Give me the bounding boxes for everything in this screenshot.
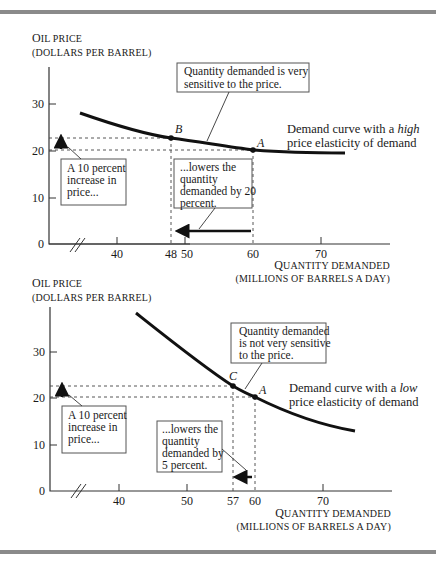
top-callout-qty-line4: percent. <box>180 197 217 210</box>
top-axes <box>49 67 190 244</box>
top-curve-label-line2: price elasticity of demand <box>287 136 417 150</box>
top-ytick-0: 0 <box>38 237 44 251</box>
top-curve-label-line1: Demand curve with a high <box>287 122 420 136</box>
bottom-xtick-60: 60 <box>249 494 261 508</box>
top-y-axis-subtitle: (DOLLARS PER BARREL) <box>32 47 152 59</box>
bottom-point-c-label: C <box>229 369 238 383</box>
bottom-callout-price-line2: increase in <box>68 421 118 433</box>
top-chart: OIL PRICE (DOLLARS PER BARREL) 30 20 10 … <box>32 31 420 285</box>
top-x-axis-title: QUANTITY DEMANDED <box>274 258 390 272</box>
bottom-callout-price-line3: price... <box>68 433 100 446</box>
bottom-xtick-57: 57 <box>227 494 239 508</box>
top-point-b-label: B <box>175 122 183 136</box>
bottom-ytick-0: 0 <box>39 484 45 498</box>
top-xtick-60: 60 <box>247 247 259 261</box>
bottom-y-axis-subtitle: (DOLLARS PER BARREL) <box>32 292 152 304</box>
top-point-a-label: A <box>256 136 265 150</box>
top-ytick-10: 10 <box>32 191 44 205</box>
top-callout-price-line2: increase in <box>67 174 117 186</box>
bottom-point-a <box>252 394 258 400</box>
top-callout-price-line3: price... <box>67 186 99 199</box>
top-ytick-30: 30 <box>32 97 44 111</box>
bottom-point-a-label: A <box>258 383 267 397</box>
bottom-ytick-20: 20 <box>33 391 45 405</box>
bottom-xtick-40: 40 <box>113 494 125 508</box>
bottom-chart: OIL PRICE (DOLLARS PER BARREL) 30 20 10 … <box>32 276 419 533</box>
bottom-xtick-70: 70 <box>317 494 329 508</box>
top-point-b <box>168 135 174 141</box>
top-point-a <box>250 147 256 153</box>
top-callout-sensitive-line2: sensitive to the price. <box>184 78 282 91</box>
top-y-axis-title: OIL PRICE <box>32 31 82 45</box>
bottom-xtick-50: 50 <box>181 494 193 508</box>
top-ytick-20: 20 <box>32 144 44 158</box>
bottom-callout-qty-line4: 5 percent. <box>162 459 207 472</box>
bottom-point-c <box>230 383 236 389</box>
bottom-callout-qty-line1: ...lowers the <box>162 423 218 435</box>
bottom-curve-label-line1: Demand curve with a low <box>289 381 418 395</box>
top-xtick-40: 40 <box>111 247 123 261</box>
bottom-curve-label-line2: price elasticity of demand <box>289 395 419 409</box>
top-axis-break-icon <box>70 238 85 252</box>
top-x-axis-subtitle: (MILLIONS OF BARRELS A DAY) <box>236 273 391 285</box>
top-callout-sensitive-line1: Quantity demanded is very <box>184 65 308 78</box>
bottom-y-axis-title: OIL PRICE <box>32 276 82 290</box>
top-callout-qty-line1: ...lowers the <box>180 161 236 173</box>
bottom-ytick-10: 10 <box>33 438 45 452</box>
top-xtick-50: 50 <box>181 247 193 261</box>
bottom-ytick-30: 30 <box>33 345 45 359</box>
top-xtick-48: 48 <box>165 247 177 261</box>
top-xtick-70: 70 <box>315 247 327 261</box>
bottom-x-axis-title: QUANTITY DEMANDED <box>275 506 391 520</box>
bottom-callout-sensitive-line3: to the price. <box>239 349 294 362</box>
bottom-x-axis-subtitle: (MILLIONS OF BARRELS A DAY) <box>237 521 392 533</box>
